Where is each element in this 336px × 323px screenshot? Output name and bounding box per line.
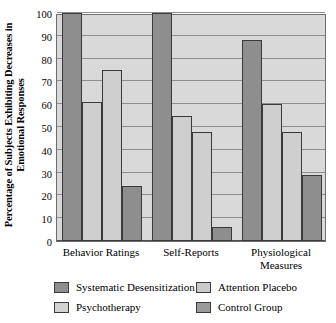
legend-item: Attention Placebo bbox=[196, 281, 297, 293]
gridline-70 bbox=[57, 80, 325, 81]
legend-swatch-icon bbox=[54, 302, 69, 313]
x-axis-label-1: Self-Reports bbox=[163, 246, 219, 259]
y-axis-tick-70: 70 bbox=[42, 77, 53, 88]
bar-chart: Percentage of Subjects Exhibiting Decrea… bbox=[0, 0, 336, 323]
bar bbox=[302, 175, 322, 241]
y-axis-tick-80: 80 bbox=[42, 54, 53, 65]
legend-item: Psychotherapy bbox=[54, 301, 141, 313]
bar bbox=[262, 104, 282, 241]
bar bbox=[282, 132, 302, 241]
y-axis-tick-90: 90 bbox=[42, 31, 53, 42]
chart-legend: Systematic DesensitizationPsychotherapyA… bbox=[54, 281, 330, 321]
x-axis-category-labels: Behavior RatingsSelf-ReportsPhysiologica… bbox=[56, 246, 326, 278]
bar bbox=[192, 132, 212, 241]
bar bbox=[152, 13, 172, 241]
legend-label: Systematic Desensitization bbox=[76, 281, 195, 293]
bar bbox=[82, 102, 102, 241]
legend-label: Control Group bbox=[218, 301, 282, 313]
y-axis-tick-40: 40 bbox=[42, 145, 53, 156]
y-axis-tick-labels: 0102030405060708090100 bbox=[26, 14, 52, 246]
y-axis-tick-10: 10 bbox=[42, 214, 53, 225]
y-axis-tick-50: 50 bbox=[42, 123, 53, 134]
legend-label: Attention Placebo bbox=[218, 281, 297, 293]
gridline-80 bbox=[57, 58, 325, 59]
bar bbox=[242, 40, 262, 241]
bar bbox=[62, 13, 82, 241]
bar bbox=[172, 116, 192, 241]
y-axis-tick-60: 60 bbox=[42, 100, 53, 111]
y-axis-tick-100: 100 bbox=[36, 9, 52, 20]
bar bbox=[102, 70, 122, 241]
legend-item: Systematic Desensitization bbox=[54, 281, 195, 293]
plot-area bbox=[56, 14, 326, 242]
x-axis-label-2: Physiological Measures bbox=[251, 246, 311, 272]
legend-item: Control Group bbox=[196, 301, 282, 313]
legend-swatch-icon bbox=[54, 282, 69, 293]
gridline-100 bbox=[57, 12, 325, 13]
y-axis-tick-0: 0 bbox=[47, 237, 52, 248]
bar bbox=[212, 227, 232, 241]
y-axis-tick-20: 20 bbox=[42, 191, 53, 202]
x-axis-label-0: Behavior Ratings bbox=[63, 246, 140, 259]
y-axis-tick-30: 30 bbox=[42, 168, 53, 179]
legend-label: Psychotherapy bbox=[76, 301, 141, 313]
bar bbox=[122, 186, 142, 241]
plot-inner bbox=[57, 15, 325, 241]
gridline-90 bbox=[57, 35, 325, 36]
legend-swatch-icon bbox=[196, 282, 211, 293]
legend-swatch-icon bbox=[196, 302, 211, 313]
